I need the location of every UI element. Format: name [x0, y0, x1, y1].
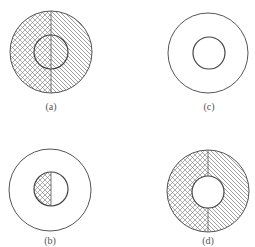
- panel-c-label: (c): [203, 101, 214, 113]
- panel-c-outer-circle: [168, 13, 248, 93]
- panel-a: (a): [10, 11, 92, 113]
- panel-b-label: (b): [44, 235, 56, 247]
- panel-d-label: (d): [202, 235, 214, 247]
- panel-b: (b): [9, 149, 91, 247]
- panel-a-label: (a): [45, 101, 56, 113]
- panel-d-inner-circle: [192, 176, 224, 208]
- panel-c: (c): [168, 13, 248, 113]
- panel-d: (d): [167, 150, 249, 247]
- panel-c-inner-circle: [193, 37, 225, 69]
- concentric-circles-figure: (a) (c) (b) (d): [0, 0, 255, 247]
